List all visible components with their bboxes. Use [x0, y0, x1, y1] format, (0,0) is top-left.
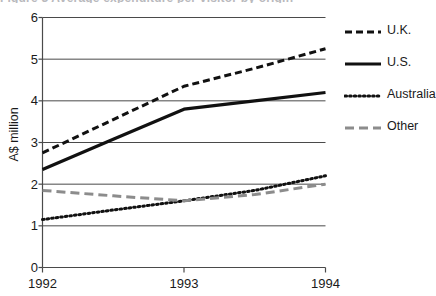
legend-item-us[interactable]: U.S. [344, 46, 436, 78]
line-chart: 0123456 199219931994 A$ million U.K. U.S… [0, 0, 436, 296]
legend-item-uk[interactable]: U.K. [344, 14, 436, 46]
legend-label-us: U.S. [387, 56, 411, 69]
legend-swatch-other [344, 120, 382, 132]
x-tick-label: 1993 [170, 277, 199, 290]
legend-swatch-australia [344, 88, 382, 100]
legend-label-other: Other [387, 120, 418, 133]
y-axis-title: A$ million [8, 95, 21, 175]
x-tick-label: 1994 [311, 277, 340, 290]
chart-legend: U.K. U.S. Australia Other [344, 14, 436, 142]
legend-swatch-us [344, 56, 382, 68]
legend-item-other[interactable]: Other [344, 110, 436, 142]
legend-item-australia[interactable]: Australia [344, 78, 436, 110]
legend-label-australia: Australia [387, 88, 436, 101]
legend-swatch-uk [344, 24, 382, 36]
legend-label-uk: U.K. [387, 24, 411, 37]
x-tick-label: 1992 [28, 277, 57, 290]
